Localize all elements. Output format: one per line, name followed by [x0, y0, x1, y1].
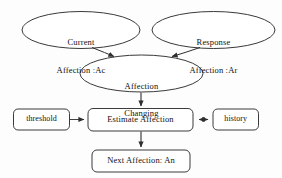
node-next-affection: [92, 150, 190, 172]
node-threshold: [14, 109, 70, 130]
node-current-affection: [22, 12, 140, 49]
edge-response-to-changing: [172, 48, 200, 57]
edge-current-to-changing: [92, 48, 114, 57]
node-response-affection: [152, 12, 275, 49]
node-estimate-affection: [88, 109, 193, 132]
diagram-graphics: [0, 0, 282, 178]
node-affection-changing: [80, 55, 203, 92]
node-history: [213, 109, 259, 130]
diagram-canvas: Current Affection :Ac Response Affection…: [0, 0, 282, 178]
